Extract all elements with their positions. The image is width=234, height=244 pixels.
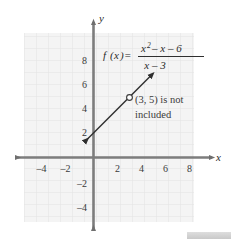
formula-numerator-rest: – x – 6 xyxy=(151,42,182,54)
open-point-hole xyxy=(127,95,133,101)
x-tick-label: 2 xyxy=(115,163,120,174)
plot-grid xyxy=(24,33,194,222)
y-tick-label: –2 xyxy=(76,178,87,189)
x-tick-label: 6 xyxy=(163,163,168,174)
y-axis-label: y xyxy=(98,12,104,24)
y-tick-label: 4 xyxy=(82,103,87,114)
y-tick-label: –4 xyxy=(76,202,87,213)
formula-numerator-var: x xyxy=(140,42,146,54)
graph-figure: y x –4 –2 2 4 6 8 8 6 4 2 –2 –4 f ( xyxy=(0,0,234,244)
x-tick-label: –4 xyxy=(36,163,47,174)
x-tick-label: 8 xyxy=(187,163,192,174)
x-axis-label: x xyxy=(215,151,221,163)
x-tick-label: –2 xyxy=(60,163,71,174)
page-edge-artifact xyxy=(187,232,231,239)
y-tick-label: 6 xyxy=(82,79,87,90)
x-tick-label: 4 xyxy=(139,163,144,174)
hole-note-line-2: included xyxy=(135,109,172,120)
formula-lhs-var: x xyxy=(113,49,119,61)
y-tick-label: 8 xyxy=(82,55,87,66)
formula-numerator-exponent: 2 xyxy=(147,41,151,50)
hole-note-line-1: (3, 5) is not xyxy=(135,94,183,106)
formula-denominator: x – 3 xyxy=(143,59,166,71)
coordinate-plane-svg: y x –4 –2 2 4 6 8 8 6 4 2 –2 –4 f ( xyxy=(0,0,234,244)
y-tick-label: 2 xyxy=(82,127,87,138)
formula-equals: = xyxy=(124,49,131,61)
